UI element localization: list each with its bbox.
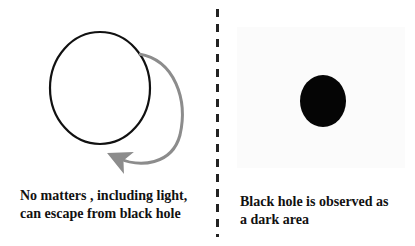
left-caption: No matters , including light, can escape… xyxy=(20,187,220,223)
event-horizon-circle xyxy=(50,32,150,144)
right-caption-line2: a dark area xyxy=(240,212,309,227)
escape-arrow-icon xyxy=(118,54,182,163)
black-hole-outline-figure xyxy=(0,0,215,180)
right-caption-line1: Black hole is observed as xyxy=(240,194,389,209)
left-caption-line2: can escape from black hole xyxy=(20,206,181,221)
left-caption-line1: No matters , including light, xyxy=(20,188,187,203)
right-panel-observation-illustration: Black hole is observed as a dark area xyxy=(222,0,415,246)
left-panel-escape-illustration: No matters , including light, can escape… xyxy=(0,0,215,246)
black-hole-dark-area xyxy=(300,75,346,127)
dashed-divider xyxy=(216,9,219,237)
dark-area-figure xyxy=(222,0,415,180)
right-caption: Black hole is observed as a dark area xyxy=(240,193,415,229)
